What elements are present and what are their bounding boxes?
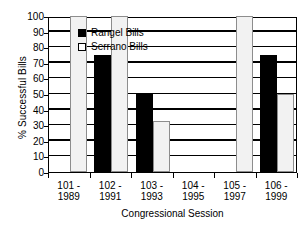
y-axis-tick-labels: 0102030405060708090100 [16, 12, 44, 172]
x-tick-label-line2: 1989 [48, 191, 90, 202]
legend: Rangel Bills Serrano Bills [78, 26, 148, 54]
y-axis-tick-label: 40 [16, 106, 44, 116]
x-axis-tick-mark [256, 173, 257, 178]
legend-swatch-icon-serrano [78, 43, 86, 51]
legend-item-serrano: Serrano Bills [78, 40, 148, 54]
x-axis-tick-label: 104 -1995 [173, 180, 215, 202]
bar-group [174, 18, 216, 172]
y-axis-tick-label: 30 [16, 121, 44, 131]
x-axis-tick-mark [90, 173, 91, 178]
x-axis-tick-label: 103 -1993 [131, 180, 173, 202]
bar-group [257, 18, 299, 172]
y-axis-tick-label: 70 [16, 59, 44, 69]
x-tick-label-line2: 1997 [214, 191, 256, 202]
x-tick-label-line2: 1993 [131, 191, 173, 202]
x-axis-title: Congressional Session [48, 208, 297, 219]
x-axis-tick-mark [131, 173, 132, 178]
x-axis-tick-label: 106 -1999 [256, 180, 298, 202]
x-tick-label-line1: 103 - [140, 180, 163, 191]
y-axis-tick-label: 20 [16, 137, 44, 147]
x-tick-label-line1: 105 - [223, 180, 246, 191]
legend-item-rangel: Rangel Bills [78, 26, 148, 40]
y-axis-tick-label: 10 [16, 152, 44, 162]
legend-label-rangel: Rangel Bills [91, 28, 144, 38]
bar-serrano [236, 16, 253, 172]
x-axis-tick-mark [48, 173, 49, 178]
x-axis-tick-label: 102 -1991 [90, 180, 132, 202]
bar-serrano [153, 121, 170, 172]
x-axis-tick-label: 105 -1997 [214, 180, 256, 202]
x-tick-label-line1: 101 - [57, 180, 80, 191]
y-axis-tick-label: 80 [16, 43, 44, 53]
legend-label-serrano: Serrano Bills [91, 42, 148, 52]
x-tick-label-line1: 104 - [182, 180, 205, 191]
x-tick-label-line2: 1995 [173, 191, 215, 202]
x-axis-tick-label: 101 -1989 [48, 180, 90, 202]
y-axis-tick-label: 100 [16, 12, 44, 22]
bar-group [215, 18, 257, 172]
bar-serrano [277, 94, 294, 172]
y-axis-tick-label: 90 [16, 28, 44, 38]
x-tick-label-line2: 1999 [256, 191, 298, 202]
bar-rangel [94, 55, 111, 172]
bar-rangel [260, 55, 277, 172]
x-axis-tick-labels: 101 -1989102 -1991103 -1993104 -1995105 … [48, 180, 297, 206]
x-axis-tick-mark [214, 173, 215, 178]
bar-rangel [136, 94, 153, 172]
y-axis-tick-label: 60 [16, 74, 44, 84]
y-axis-tick-label: 0 [16, 168, 44, 178]
y-axis-tick-label: 50 [16, 90, 44, 100]
bar-chart: % Successful Bills 010203040506070809010… [0, 0, 305, 233]
legend-swatch-icon-rangel [78, 29, 86, 37]
x-axis-tick-mark [297, 173, 298, 178]
x-tick-label-line1: 106 - [265, 180, 288, 191]
x-tick-label-line2: 1991 [90, 191, 132, 202]
x-axis-tick-mark [173, 173, 174, 178]
x-tick-label-line1: 102 - [99, 180, 122, 191]
